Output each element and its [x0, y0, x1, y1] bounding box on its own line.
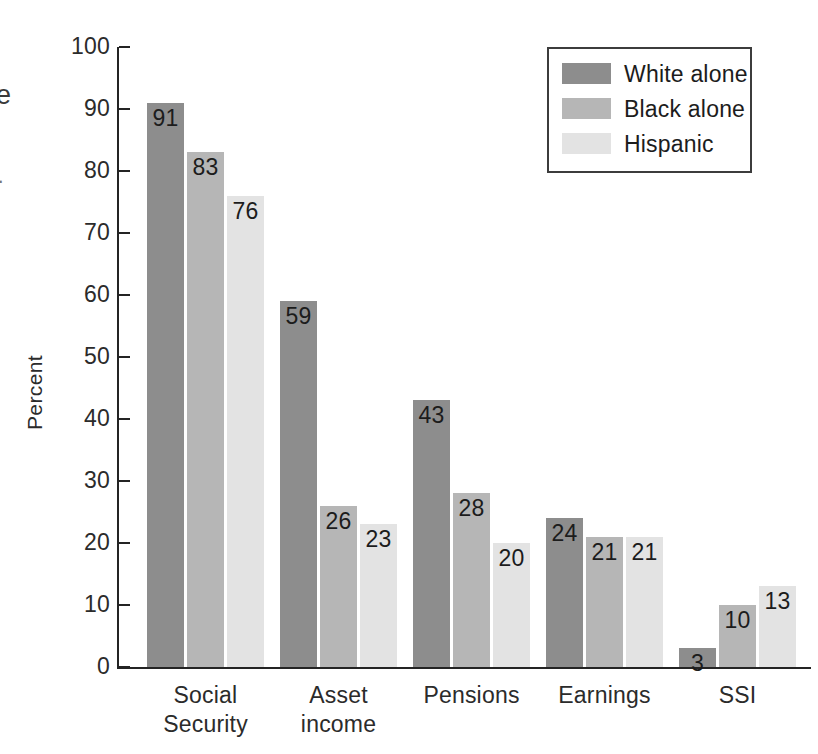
y-axis-tick-label-wrap: 80: [50, 159, 110, 182]
y-axis-tick-label: 90: [64, 97, 110, 120]
legend-label: White alone: [624, 59, 748, 89]
legend-swatch-icon: [562, 63, 611, 84]
bar[interactable]: [147, 103, 184, 667]
legend-swatch-icon: [562, 133, 611, 154]
x-axis-category-label: SSI: [658, 681, 818, 710]
y-axis-tick-label: 20: [64, 531, 110, 554]
y-axis-tick-label-wrap: 20: [50, 531, 110, 554]
y-axis-tick-label-wrap: 60: [50, 283, 110, 306]
bar-value-label: 3: [679, 652, 716, 675]
bar-group: 432820: [413, 47, 530, 667]
y-axis-tick-label-wrap: 0: [50, 655, 110, 678]
bar-value-label: 21: [626, 541, 663, 564]
scan-artifact-letter: e: [0, 82, 11, 109]
bar-group: 592623: [280, 47, 397, 667]
legend-label: Hispanic: [624, 129, 714, 159]
y-axis-tick-label-wrap: 70: [50, 221, 110, 244]
y-axis-tick-label: 70: [64, 221, 110, 244]
y-axis-tick-label: 40: [64, 407, 110, 430]
bar-value-label: 21: [586, 541, 623, 564]
category-label-line: SSI: [658, 681, 818, 710]
y-axis-tick-label: 30: [64, 469, 110, 492]
bar-value-label: 13: [759, 590, 796, 613]
bar-value-label: 20: [493, 547, 530, 570]
bar-value-label: 59: [280, 305, 317, 328]
y-axis-tick-label: 10: [64, 593, 110, 616]
bar-value-label: 24: [546, 522, 583, 545]
bar-value-label: 91: [147, 107, 184, 130]
y-axis-title: Percent: [24, 338, 45, 448]
chart-legend: White aloneBlack aloneHispanic: [547, 47, 752, 173]
bar-value-label: 76: [227, 200, 264, 223]
bar-value-label: 23: [360, 528, 397, 551]
scan-artifact-mark: ·: [0, 170, 4, 192]
legend-swatch-icon: [562, 98, 611, 119]
y-axis-tick-label: 100: [64, 35, 110, 58]
y-axis-tick-label: 80: [64, 159, 110, 182]
y-axis-tick-label: 50: [64, 345, 110, 368]
y-axis-tick-label-wrap: 100: [50, 35, 110, 58]
y-axis-tick-label-wrap: 10: [50, 593, 110, 616]
bar-chart: e · 1009080706050403020100 Percent 91837…: [0, 0, 818, 754]
bar-value-label: 26: [320, 510, 357, 533]
bar[interactable]: [227, 196, 264, 667]
bar-value-label: 83: [187, 156, 224, 179]
y-axis-tick-label-wrap: 90: [50, 97, 110, 120]
category-label-line: income: [259, 710, 419, 739]
y-axis-tick-label: 0: [64, 655, 110, 678]
bar-value-label: 10: [719, 609, 756, 632]
y-axis-tick-label-wrap: 30: [50, 469, 110, 492]
bar-value-label: 43: [413, 404, 450, 427]
y-axis-tick-label-wrap: 50: [50, 345, 110, 368]
bar[interactable]: [280, 301, 317, 667]
legend-label: Black alone: [624, 94, 745, 124]
y-axis-tick-label-wrap: 40: [50, 407, 110, 430]
bar-value-label: 28: [453, 497, 490, 520]
bar-group: 918376: [147, 47, 264, 667]
bar[interactable]: [413, 400, 450, 667]
y-axis-tick-label: 60: [64, 283, 110, 306]
bar[interactable]: [187, 152, 224, 667]
